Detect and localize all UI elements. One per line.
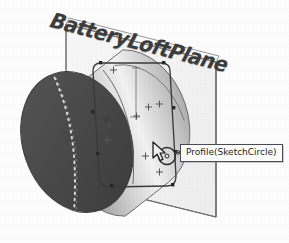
cad-3d-viewport[interactable]: BatteryLoftPlane Profile(SketchCircle) bbox=[0, 0, 289, 243]
selection-tooltip: Profile(SketchCircle) bbox=[180, 144, 283, 162]
scene-graphics bbox=[0, 0, 289, 243]
